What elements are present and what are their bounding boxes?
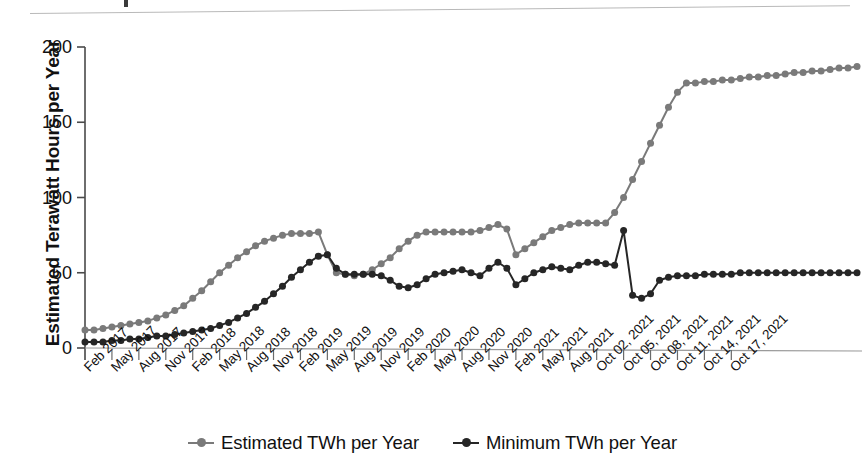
data-point: [503, 226, 510, 233]
data-point: [512, 251, 519, 258]
data-point: [423, 229, 430, 236]
data-point: [611, 262, 618, 269]
data-point: [692, 80, 699, 87]
data-point: [800, 269, 807, 276]
data-point: [288, 230, 295, 237]
data-point: [800, 69, 807, 76]
data-point: [485, 265, 492, 272]
chart-legend: Estimated TWh per YearMinimum TWh per Ye…: [0, 432, 865, 454]
data-point: [144, 317, 151, 324]
data-point: [629, 176, 636, 183]
data-point: [351, 271, 358, 278]
data-point: [207, 278, 214, 285]
data-point: [620, 227, 627, 234]
data-point: [557, 265, 564, 272]
data-point: [692, 272, 699, 279]
data-point: [126, 335, 133, 342]
data-point: [450, 268, 457, 275]
data-point: [620, 194, 627, 201]
data-point: [270, 235, 277, 242]
data-point: [701, 78, 708, 85]
data-point: [656, 277, 663, 284]
data-point: [638, 295, 645, 302]
data-point: [683, 80, 690, 87]
data-point: [476, 272, 483, 279]
data-point: [737, 269, 744, 276]
data-point: [512, 281, 519, 288]
data-point: [189, 295, 196, 302]
data-point: [180, 329, 187, 336]
legend-marker-icon: [453, 436, 479, 450]
data-point: [261, 298, 268, 305]
legend-marker-icon: [188, 436, 214, 450]
data-point: [629, 292, 636, 299]
data-point: [135, 319, 142, 326]
legend-dot: [462, 438, 471, 447]
data-point: [450, 229, 457, 236]
data-point: [216, 269, 223, 276]
data-point: [845, 269, 852, 276]
data-point: [719, 271, 726, 278]
data-point: [836, 65, 843, 72]
data-point: [207, 325, 214, 332]
data-point: [602, 260, 609, 267]
data-point: [782, 71, 789, 78]
data-point: [548, 227, 555, 234]
data-point: [216, 322, 223, 329]
data-point: [405, 284, 412, 291]
data-point: [584, 259, 591, 266]
data-point: [764, 72, 771, 79]
data-point: [764, 269, 771, 276]
data-point: [198, 326, 205, 333]
data-point: [252, 242, 259, 249]
data-point: [315, 253, 322, 260]
data-point: [818, 68, 825, 75]
data-point: [405, 238, 412, 245]
data-point: [836, 269, 843, 276]
data-point: [117, 322, 124, 329]
data-point: [189, 328, 196, 335]
data-point: [369, 271, 376, 278]
data-point: [638, 158, 645, 165]
data-point: [360, 271, 367, 278]
data-point: [459, 229, 466, 236]
data-point: [90, 338, 97, 345]
data-point: [494, 259, 501, 266]
data-point: [665, 104, 672, 111]
data-point: [117, 337, 124, 344]
data-point: [530, 269, 537, 276]
data-point: [82, 338, 89, 345]
data-point: [234, 314, 241, 321]
data-point: [809, 269, 816, 276]
data-point: [557, 224, 564, 231]
data-point: [494, 221, 501, 228]
data-point: [710, 78, 717, 85]
data-point: [99, 338, 106, 345]
data-point: [162, 332, 169, 339]
data-point: [818, 269, 825, 276]
legend-dot: [197, 438, 206, 447]
data-point: [288, 274, 295, 281]
data-point: [171, 307, 178, 314]
data-point: [530, 239, 537, 246]
data-point: [548, 263, 555, 270]
data-point: [683, 272, 690, 279]
data-point: [198, 287, 205, 294]
data-point: [791, 69, 798, 76]
legend-item-minimum[interactable]: Minimum TWh per Year: [453, 432, 677, 454]
data-point: [234, 254, 241, 261]
data-point: [854, 63, 861, 70]
data-point: [171, 331, 178, 338]
data-point: [387, 277, 394, 284]
data-point: [243, 310, 250, 317]
series-line: [85, 231, 857, 342]
data-point: [827, 269, 834, 276]
legend-item-estimated[interactable]: Estimated TWh per Year: [188, 432, 419, 454]
data-point: [728, 271, 735, 278]
data-point: [225, 262, 232, 269]
data-point: [162, 311, 169, 318]
data-point: [521, 245, 528, 252]
data-point: [791, 269, 798, 276]
legend-label: Estimated TWh per Year: [221, 432, 419, 454]
data-point: [297, 266, 304, 273]
